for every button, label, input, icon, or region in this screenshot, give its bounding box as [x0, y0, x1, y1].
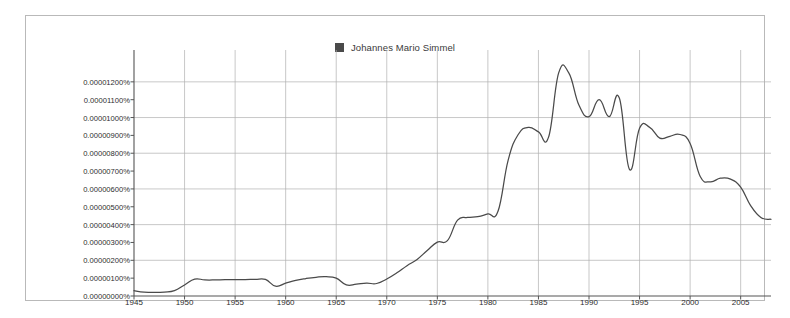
y-tick-label: 0.00000100% — [83, 274, 130, 283]
x-tick-label: 1945 — [125, 298, 143, 307]
x-tick-label: 1985 — [530, 298, 548, 307]
x-tick-label: 1960 — [277, 298, 295, 307]
chart-svg — [134, 64, 771, 296]
y-axis-tick-labels: 0.00000000%0.00000100%0.00000200%0.00000… — [26, 64, 130, 296]
x-axis-tick-labels: 1945195019551960196519701975198019851990… — [134, 298, 771, 312]
chart-frame: Johannes Mario Simmel 0.00000000%0.00000… — [25, 15, 765, 301]
y-tick-label: 0.00001200% — [83, 77, 130, 86]
x-tick-label: 1950 — [176, 298, 194, 307]
x-tick-label: 2005 — [732, 298, 750, 307]
legend-label: Johannes Mario Simmel — [351, 42, 455, 53]
x-tick-label: 1955 — [226, 298, 244, 307]
y-tick-label: 0.00000400% — [83, 220, 130, 229]
x-tick-label: 1975 — [428, 298, 446, 307]
chart-legend: Johannes Mario Simmel — [26, 42, 764, 53]
x-tick-label: 1990 — [580, 298, 598, 307]
ngram-chart-screenshot: Johannes Mario Simmel 0.00000000%0.00000… — [0, 0, 790, 318]
data-series-line — [134, 65, 771, 293]
y-tick-label: 0.00000600% — [83, 184, 130, 193]
y-tick-label: 0.00000700% — [83, 167, 130, 176]
plot-area — [134, 64, 771, 296]
x-tick-label: 1995 — [631, 298, 649, 307]
y-tick-label: 0.00001100% — [84, 95, 130, 104]
y-tick-label: 0.00001000% — [83, 113, 130, 122]
x-tick-label: 1970 — [378, 298, 396, 307]
y-tick-label: 0.00000300% — [83, 238, 130, 247]
y-tick-label: 0.00000500% — [83, 202, 130, 211]
y-tick-label: 0.00000900% — [83, 131, 130, 140]
y-tick-label: 0.00000000% — [83, 292, 130, 301]
x-tick-label: 1965 — [327, 298, 345, 307]
x-tick-label: 1980 — [479, 298, 497, 307]
x-tick-label: 2000 — [681, 298, 699, 307]
y-tick-label: 0.00000800% — [83, 149, 130, 158]
y-tick-label: 0.00000200% — [83, 256, 130, 265]
